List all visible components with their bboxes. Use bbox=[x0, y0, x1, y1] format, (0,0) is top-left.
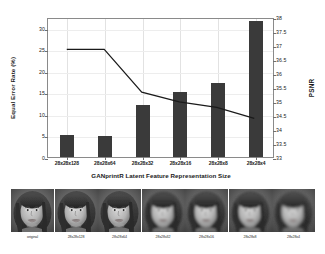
right-tick-label: 36.5 bbox=[276, 58, 287, 63]
x-tick-label-28x28x4: 28x28x4 bbox=[247, 161, 266, 166]
right-tick-label: 38 bbox=[276, 16, 282, 21]
x-tick-label-28x28x8: 28x28x8 bbox=[209, 161, 228, 166]
x-axis-title: GANprintR Latent Feature Representation … bbox=[91, 172, 230, 179]
figure-panel: Equal Error Rate (%) PSNR GANprintR Late… bbox=[0, 0, 325, 254]
right-axis-label: PSNR bbox=[308, 79, 315, 98]
face-thumbnail bbox=[98, 189, 141, 232]
face-thumbnail bbox=[11, 189, 54, 232]
left-tick-mark bbox=[45, 51, 48, 52]
face-image-strip: original 28x28x128 bbox=[11, 189, 314, 249]
x-tick-label-28x28x128: 28x28x128 bbox=[55, 161, 79, 166]
right-tick-label: 33 bbox=[276, 156, 282, 161]
face-caption: 28x28x32 bbox=[142, 236, 185, 240]
psnr-line-series bbox=[48, 19, 273, 157]
x-tick-label-28x28x32: 28x28x32 bbox=[132, 161, 153, 166]
right-tick-label: 36 bbox=[276, 72, 282, 77]
right-tick-label: 33.5 bbox=[276, 142, 287, 147]
face-caption: 28x28x4 bbox=[272, 236, 315, 240]
right-tick-mark bbox=[273, 47, 276, 48]
psnr-polyline bbox=[67, 49, 254, 118]
right-tick-mark bbox=[273, 89, 276, 90]
face-thumbnail bbox=[272, 189, 315, 232]
right-tick-mark bbox=[273, 75, 276, 76]
right-tick-label: 37.5 bbox=[276, 30, 287, 35]
face-cell-28x28x64: 28x28x64 bbox=[98, 189, 141, 240]
x-tick-label-28x28x64: 28x28x64 bbox=[94, 161, 115, 166]
right-tick-label: 35.5 bbox=[276, 86, 287, 91]
right-tick-mark bbox=[273, 33, 276, 34]
left-tick-mark bbox=[45, 159, 48, 160]
face-caption: original bbox=[11, 236, 54, 240]
right-tick-mark bbox=[273, 103, 276, 104]
face-thumbnail bbox=[142, 189, 185, 232]
face-cell-28x28x4: 28x28x4 bbox=[272, 189, 315, 240]
face-cell-28x28x128: 28x28x128 bbox=[55, 189, 98, 240]
right-tick-label: 35 bbox=[276, 100, 282, 105]
face-caption: 28x28x16 bbox=[185, 236, 228, 240]
face-thumbnail bbox=[185, 189, 228, 232]
right-tick-label: 37 bbox=[276, 44, 282, 49]
face-thumbnail bbox=[55, 189, 98, 232]
left-axis-label: Equal Error Rate (%) bbox=[9, 57, 16, 119]
plot-frame: 051015202530 3333.53434.53535.53636.5373… bbox=[47, 18, 274, 158]
chart-area: Equal Error Rate (%) PSNR GANprintR Late… bbox=[0, 0, 325, 190]
face-caption: 28x28x128 bbox=[55, 236, 98, 240]
left-tick-mark bbox=[45, 137, 48, 138]
right-tick-mark bbox=[273, 117, 276, 118]
face-cell-28x28x32: 28x28x32 bbox=[142, 189, 185, 240]
right-tick-label: 34.5 bbox=[276, 114, 287, 119]
face-thumbnail bbox=[229, 189, 272, 232]
left-tick-mark bbox=[45, 30, 48, 31]
left-tick-mark bbox=[45, 94, 48, 95]
right-tick-mark bbox=[273, 19, 276, 20]
x-tick-label-28x28x16: 28x28x16 bbox=[170, 161, 191, 166]
face-caption: 28x28x64 bbox=[98, 236, 141, 240]
face-cell-28x28x16: 28x28x16 bbox=[185, 189, 228, 240]
left-tick-mark bbox=[45, 116, 48, 117]
face-cell-28x28x8: 28x28x8 bbox=[229, 189, 272, 240]
right-tick-mark bbox=[273, 159, 276, 160]
right-tick-mark bbox=[273, 131, 276, 132]
right-tick-mark bbox=[273, 145, 276, 146]
right-tick-mark bbox=[273, 61, 276, 62]
face-cell-original: original bbox=[11, 189, 54, 240]
left-tick-mark bbox=[45, 73, 48, 74]
right-tick-label: 34 bbox=[276, 128, 282, 133]
face-caption: 28x28x8 bbox=[229, 236, 272, 240]
